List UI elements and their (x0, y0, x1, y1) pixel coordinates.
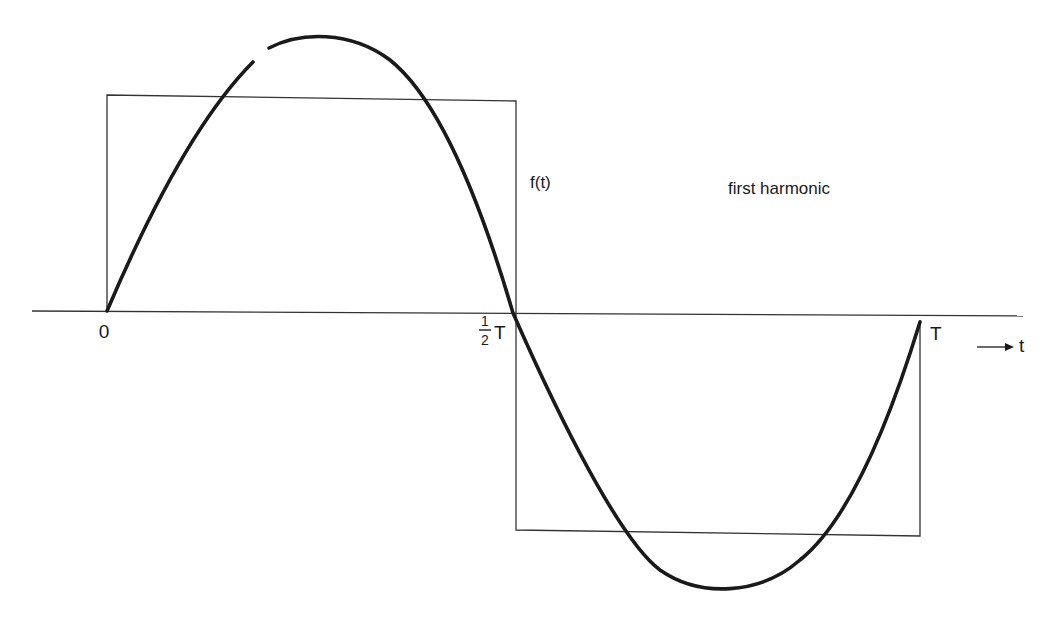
first-harmonic-curve-segment-1 (107, 62, 253, 311)
time-axis (32, 311, 1023, 316)
axis-variable-label: t (1019, 335, 1025, 356)
fraction-denominator: 2 (481, 332, 489, 348)
axis-arrow-label: t (977, 335, 1025, 356)
tick-label-zero: 0 (99, 321, 110, 342)
function-label: f(t) (530, 173, 551, 192)
tick-label-half-period: 1 2 T (479, 313, 506, 348)
figure-title: first harmonic (728, 179, 831, 198)
fraction-numerator: 1 (481, 313, 489, 329)
fraction-suffix: T (494, 322, 506, 343)
fourier-first-harmonic-diagram: 0 1 2 T T t f(t) first harmonic (0, 0, 1048, 625)
tick-label-period: T (930, 323, 942, 344)
arrow-head-icon (1005, 343, 1014, 351)
